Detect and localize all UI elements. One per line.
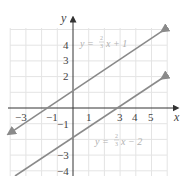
svg-text:x + 1: x + 1 bbox=[105, 38, 127, 49]
svg-text:y =: y = bbox=[79, 38, 94, 49]
svg-text:4: 4 bbox=[132, 111, 138, 123]
svg-text:3: 3 bbox=[63, 54, 69, 66]
svg-text:2: 2 bbox=[63, 70, 69, 82]
svg-text:3: 3 bbox=[100, 43, 103, 49]
svg-text:3: 3 bbox=[117, 111, 123, 123]
svg-text:2: 2 bbox=[115, 133, 118, 139]
svg-text:1: 1 bbox=[86, 111, 92, 123]
x-tick-labels: −3 −1 1 3 4 5 bbox=[15, 111, 154, 123]
svg-text:−1: −1 bbox=[57, 118, 69, 130]
y-axis-label: y bbox=[60, 11, 67, 25]
svg-text:−3: −3 bbox=[15, 111, 27, 123]
grid bbox=[10, 28, 167, 176]
svg-text:3: 3 bbox=[115, 141, 118, 147]
svg-text:5: 5 bbox=[148, 111, 154, 123]
svg-text:−4: −4 bbox=[57, 165, 69, 176]
equation-label-2: y = 2 3 x − 2 bbox=[94, 133, 142, 147]
svg-text:−3: −3 bbox=[57, 149, 69, 161]
x-axis-label: x bbox=[173, 110, 180, 124]
svg-text:y =: y = bbox=[94, 136, 109, 147]
svg-text:2: 2 bbox=[100, 35, 103, 41]
svg-text:−1: −1 bbox=[46, 111, 58, 123]
svg-text:4: 4 bbox=[63, 39, 69, 51]
svg-text:x − 2: x − 2 bbox=[120, 136, 142, 147]
equation-label-1: y = 2 3 x + 1 bbox=[79, 35, 127, 49]
coordinate-plane: y x −3 −1 1 3 4 5 4 3 2 −1 −3 −4 y = 2 3… bbox=[0, 0, 187, 176]
